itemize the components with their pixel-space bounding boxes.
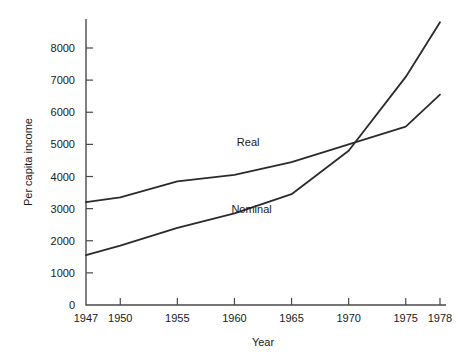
y-axis-tick-label: 7000: [51, 74, 75, 86]
x-axis-tick-label: 1975: [393, 312, 417, 324]
chart-axis-lines: [86, 19, 446, 305]
series-line-nominal: [86, 22, 440, 255]
line-chart: 010002000300040005000600070008000 194719…: [0, 0, 470, 352]
y-axis-tick-label: 8000: [51, 42, 75, 54]
ticks-group: [86, 48, 440, 305]
y-axis-tick-label: 3000: [51, 203, 75, 215]
y-axis-tick-label: 5000: [51, 138, 75, 150]
y-axis-tick-labels: 010002000300040005000600070008000: [51, 42, 75, 311]
y-axis-tick-label: 0: [69, 299, 75, 311]
x-axis-tick-label: 1950: [108, 312, 132, 324]
x-axis-tick-label: 1955: [165, 312, 189, 324]
y-axis-tick-label: 4000: [51, 171, 75, 183]
x-axis-tick-label: 1947: [74, 312, 98, 324]
x-axis-tick-labels: 19471950195519601965197019751978: [74, 312, 452, 324]
y-axis-title: Per capita income: [22, 118, 34, 206]
series-inline-labels: RealNominal: [231, 136, 271, 215]
series-line-real: [86, 95, 440, 203]
y-axis-tick-label: 1000: [51, 267, 75, 279]
series-lines-group: [86, 22, 440, 255]
axes-group: [86, 19, 446, 305]
x-axis-tick-label: 1970: [336, 312, 360, 324]
x-axis-tick-label: 1978: [428, 312, 452, 324]
series-label-real: Real: [237, 136, 260, 148]
series-label-nominal: Nominal: [231, 203, 271, 215]
y-axis-tick-label: 2000: [51, 235, 75, 247]
x-axis-tick-label: 1965: [279, 312, 303, 324]
x-axis-tick-label: 1960: [222, 312, 246, 324]
y-axis-tick-label: 6000: [51, 106, 75, 118]
chart-container: 010002000300040005000600070008000 194719…: [0, 0, 470, 352]
x-axis-title: Year: [252, 336, 275, 348]
